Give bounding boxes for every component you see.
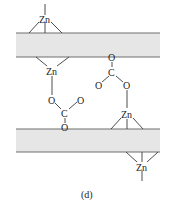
carbonate-right-o2: O: [95, 80, 102, 91]
zn-bottom-inner-group: Zn: [111, 109, 143, 129]
top-layer: [16, 33, 160, 57]
zn-top-inner: Zn: [46, 66, 57, 77]
layered-zinc-carbonate-diagram: Zn Zn O O C O O C O O Zn: [0, 0, 169, 208]
carbonate-right-o3: O: [123, 80, 130, 91]
zn-bottom-outer-group: Zn: [126, 152, 158, 181]
zn-bottom-inner: Zn: [121, 109, 132, 120]
zn-top-outer-group: Zn: [29, 4, 62, 33]
carbonate-left-o2: O: [77, 95, 84, 106]
carbonate-left-o1: O: [48, 95, 55, 106]
carbonate-right-o1: O: [108, 52, 115, 63]
figure-caption: (d): [81, 189, 93, 201]
carbonate-left-c: C: [61, 108, 68, 119]
carbonate-left: O O C O: [48, 95, 84, 133]
carbonate-right: O C O O: [95, 52, 130, 108]
zn-top-inner-group: Zn: [36, 57, 69, 95]
carbonate-left-o3: O: [61, 122, 68, 133]
zn-bottom-outer: Zn: [136, 162, 147, 173]
bottom-layer: [16, 129, 160, 152]
zn-top-outer: Zn: [39, 14, 50, 25]
